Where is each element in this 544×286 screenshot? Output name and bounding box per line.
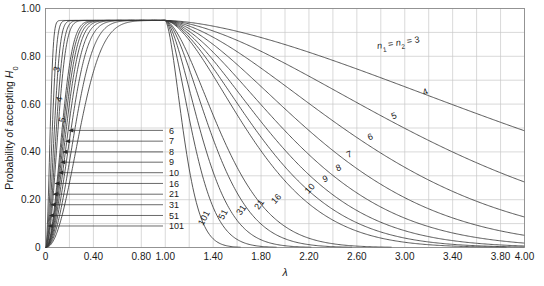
x-tick-label-10: 3.80 [491,251,511,262]
y-tick-label-0: 0 [35,242,41,253]
oc-curve-figure: 00.400.801.001.401.802.202.603.003.403.8… [0,0,544,286]
x-tick-label-9: 3.40 [443,251,463,262]
y-tick-label-5: 1.00 [21,3,41,14]
curve-label-right-9: 9 [321,173,329,184]
curve-label-right-7: 7 [345,149,353,160]
leader-label-51: 51 [169,211,179,221]
oc-curve-chart: 00.400.801.001.401.802.202.603.003.403.8… [0,0,544,286]
y-tick-label-2: 0.40 [21,146,41,157]
x-tick-label-3: 1.00 [156,251,176,262]
leader-label-10: 10 [169,168,179,178]
x-tick-label-7: 2.60 [347,251,367,262]
curve-label-right-10: 10 [303,182,317,196]
y-tick-label-1: 0.20 [21,194,41,205]
curve-label-right-4: 4 [421,86,429,97]
curve-label-right-6: 6 [366,131,374,142]
x-tick-label-4: 1.40 [203,251,223,262]
x-tick-label-0: 0 [43,251,49,262]
leader-label-31: 31 [169,200,179,210]
leader-label-101: 101 [169,221,184,231]
leader-label-7: 7 [169,136,174,146]
x-tick-label-2: 0.80 [132,251,152,262]
y-tick-label-3: 0.60 [21,99,41,110]
curve-label-right-16: 16 [269,192,283,206]
x-tick-label-5: 1.80 [251,251,271,262]
x-tick-label-1: 0.40 [84,251,104,262]
curve-label-right-31: 31 [234,203,248,217]
leader-label-21: 21 [169,189,179,199]
y-axis-label: Probability of accepting H0 [3,66,20,189]
curve-label-right-5: 5 [390,110,398,121]
curve-label-left-4: 4 [54,95,65,103]
oc-curve-n-10 [46,20,507,247]
leader-label-16: 16 [169,179,179,189]
curve-label-right-101: 101 [196,209,212,227]
y-tick-label-4: 0.80 [21,51,41,62]
x-tick-label-8: 3.00 [395,251,415,262]
leader-label-9: 9 [169,157,174,167]
leader-arrow-7 [65,139,70,143]
curve-label-right-8: 8 [334,162,342,173]
x-axis-label: λ [281,266,287,278]
leader-label-6: 6 [169,126,174,136]
annotation-n1-n2-3: n1 = n2 = 3 [376,34,420,53]
x-tick-label-11: 4.00 [515,251,535,262]
curve-label-right-51: 51 [216,208,230,222]
leader-label-8: 8 [169,147,174,157]
x-tick-label-6: 2.20 [299,251,319,262]
